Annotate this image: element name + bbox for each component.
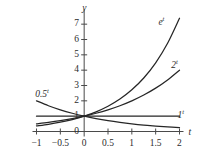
curve-label-1-t: 1t: [177, 111, 184, 121]
x-tick-label-3: 0.5: [102, 139, 114, 149]
x-tick-label-4: 1: [129, 139, 134, 149]
curve-label-exponent: t: [163, 15, 165, 22]
x-tick-label-0: −1: [32, 139, 42, 149]
curve-label-base: 0.5: [35, 89, 47, 99]
y-tick-label-0: 0: [74, 127, 79, 137]
tick-marks: [37, 24, 180, 134]
y-tick-label-5: 5: [74, 50, 79, 60]
curve-label-exponent: t: [176, 58, 178, 65]
y-axis-label: y: [82, 4, 86, 14]
x-tick-label-6: 2: [177, 139, 182, 149]
y-tick-label-7: 7: [74, 19, 79, 29]
curve-label-exponent: t: [47, 87, 49, 94]
y-tick-label-2: 2: [74, 96, 79, 106]
x-tick-label-2: 0: [82, 139, 87, 149]
curve-label-e-t: et: [158, 18, 164, 28]
x-tick-label-5: 1.5: [150, 139, 162, 149]
x-tick-label-1: −0.5: [52, 139, 69, 149]
y-tick-label-4: 4: [74, 65, 79, 75]
axis-lines: [33, 10, 184, 137]
curve-label-2-t: 2t: [171, 61, 178, 71]
exponential-functions-chart: −1−0.500.511.52 01234567 et2t1t0.5t y t: [0, 0, 208, 164]
curve-paths: [37, 18, 180, 127]
y-tick-label-6: 6: [74, 35, 79, 45]
curve-label-exponent: t: [182, 108, 184, 115]
curve-0-5-t: [37, 101, 180, 128]
x-axis-label: t: [189, 128, 192, 138]
y-tick-label-3: 3: [74, 81, 79, 91]
curve-label-0-5-t: 0.5t: [35, 90, 49, 100]
y-tick-label-1: 1: [74, 111, 79, 121]
